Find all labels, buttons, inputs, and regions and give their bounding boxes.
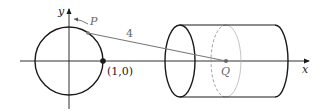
point-1-0 (100, 58, 106, 64)
diagram-figure: y x P Q (1,0) 4 (0, 0, 325, 111)
point-p-label: P (89, 15, 98, 28)
motion-arrow (74, 19, 88, 24)
diagram-canvas: y x P Q (1,0) 4 (0, 0, 325, 111)
point-q-label: Q (221, 65, 230, 78)
segment-pq (88, 33, 226, 61)
point-p (86, 31, 90, 35)
x-axis-label: x (302, 63, 309, 76)
segment-length-label: 4 (126, 27, 133, 40)
y-axis-label: y (57, 5, 65, 18)
point-q (224, 59, 228, 63)
point-1-0-label: (1,0) (107, 65, 133, 78)
